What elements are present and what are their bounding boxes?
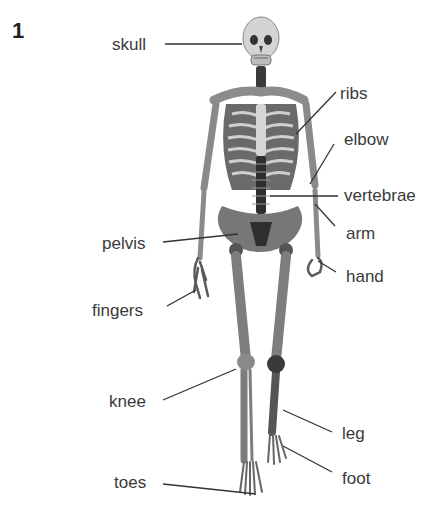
label-skull: skull (112, 36, 146, 53)
label-vertebrae: vertebrae (344, 187, 416, 204)
label-fingers: fingers (92, 302, 143, 319)
neck-vertebrae (256, 66, 266, 90)
skull-shape (243, 17, 279, 65)
label-ribs: ribs (340, 85, 367, 102)
hands-shape (194, 258, 322, 298)
label-arm: arm (346, 225, 375, 242)
label-pelvis: pelvis (102, 235, 145, 252)
label-foot: foot (342, 470, 370, 487)
label-knee: knee (109, 393, 146, 410)
skeleton-illustration (0, 0, 447, 519)
label-leg: leg (342, 425, 365, 442)
label-toes: toes (114, 474, 146, 491)
label-hand: hand (346, 268, 384, 285)
label-elbow: elbow (344, 131, 388, 148)
